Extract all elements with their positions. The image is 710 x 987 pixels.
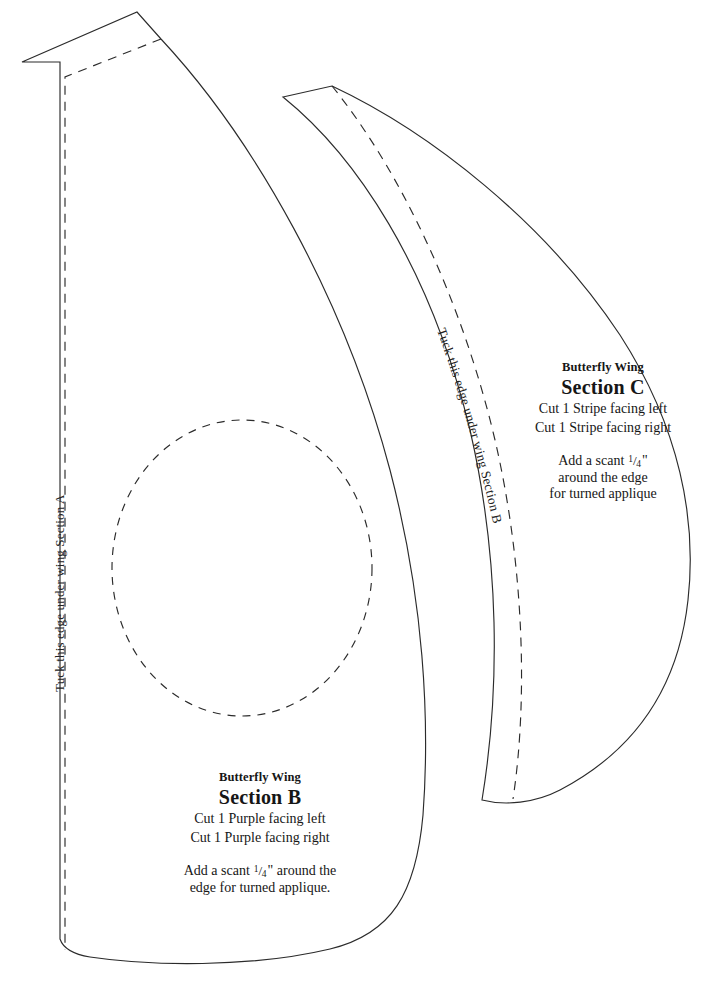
fraction-denominator: 4 [262, 869, 267, 879]
section-b-cut-line-2: Cut 1 Purple facing right [140, 830, 380, 847]
section-c-fraction-quarter: 1/4 [628, 453, 642, 470]
section-c-note-line-1: Add a scant 1/4" [513, 453, 693, 470]
section-b-note: Add a scant 1/4" around the edge for tur… [140, 863, 380, 896]
section-b-note-line-2: edge for turned applique. [140, 880, 380, 897]
section-c-note-suffix: " [642, 453, 648, 468]
section-b-note-line-1: Add a scant 1/4" around the [140, 863, 380, 880]
section-c-title: Section C [513, 376, 693, 400]
section-c-label-block: Butterfly Wing Section C Cut 1 Stripe fa… [513, 360, 693, 503]
section-b-cut-line-1: Cut 1 Purple facing left [140, 811, 380, 828]
section-b-tuck-label: Tuck this edge under wing Section A [52, 362, 68, 692]
section-b-label-block: Butterfly Wing Section B Cut 1 Purple fa… [140, 770, 380, 896]
fraction-numerator: 1 [254, 864, 259, 874]
pattern-sheet: Tuck this edge under wing Section B Tuck… [0, 0, 710, 987]
section-b-oval-placement-marking [112, 420, 372, 716]
section-c-cut-line-2: Cut 1 Stripe facing right [513, 420, 693, 437]
fraction-numerator: 1 [628, 454, 633, 464]
fraction-denominator: 4 [636, 459, 641, 469]
section-c-note-line-2: around the edge [513, 470, 693, 487]
section-c-note-line-3: for turned applique [513, 486, 693, 503]
section-c-note: Add a scant 1/4" around the edge for tur… [513, 453, 693, 503]
section-b-note-prefix: Add a scant [184, 863, 254, 878]
section-c-kicker: Butterfly Wing [513, 360, 693, 375]
section-c-cut-line-1: Cut 1 Stripe facing left [513, 401, 693, 418]
section-c-note-prefix: Add a scant [558, 453, 628, 468]
section-b-title: Section B [140, 786, 380, 810]
section-b-kicker: Butterfly Wing [140, 770, 380, 785]
section-b-fraction-quarter: 1/4 [253, 863, 267, 880]
section-b-note-suffix: " around the [268, 863, 337, 878]
